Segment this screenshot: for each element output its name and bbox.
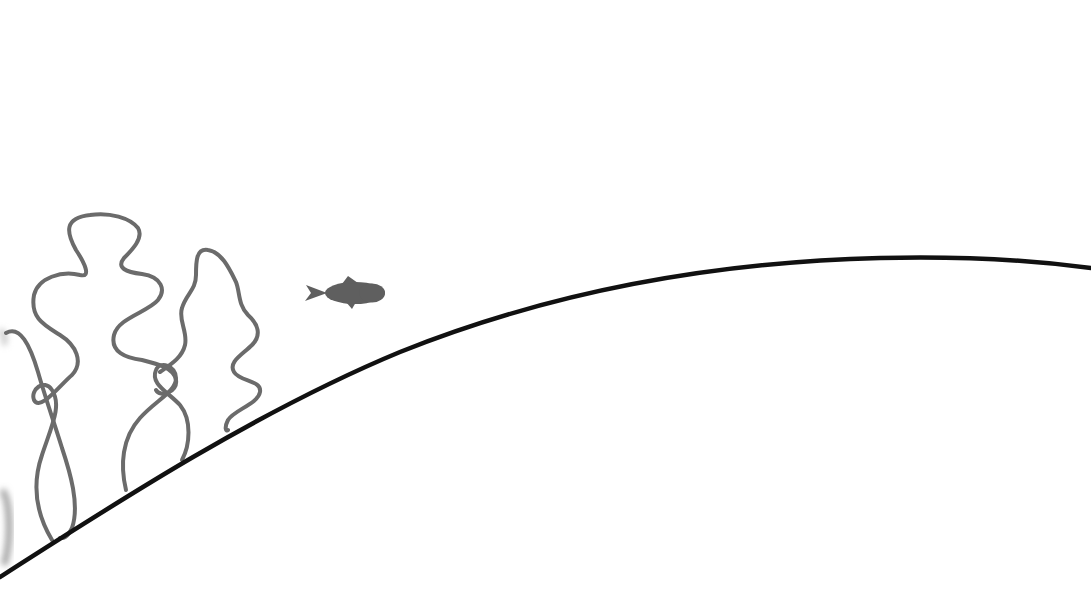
illustration-canvas: Underwater line illustration: seaweed an…: [0, 0, 1091, 596]
seaweed-strand-right-icon: [160, 250, 260, 431]
blurred-edge-shape: [0, 330, 9, 565]
fish-icon: [305, 276, 385, 309]
scene-svg: [0, 0, 1091, 596]
seaweed-strand-middle-icon: [123, 365, 189, 490]
seafloor-curve: [0, 257, 1091, 577]
